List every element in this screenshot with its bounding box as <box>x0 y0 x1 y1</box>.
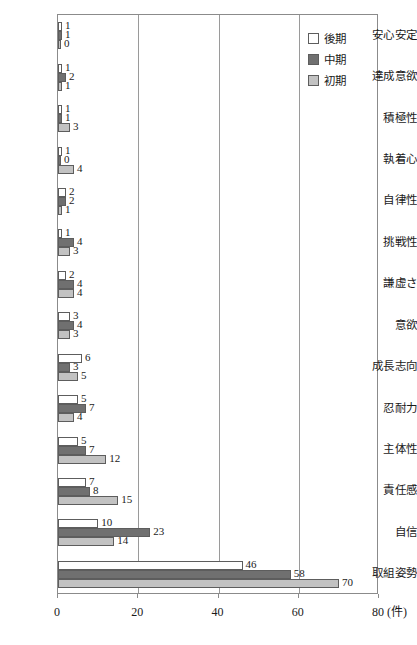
bar-後期 <box>58 519 98 528</box>
bar-中期 <box>58 156 61 165</box>
bar-中期 <box>58 363 70 372</box>
legend-label: 中期 <box>324 54 346 66</box>
bar-value-label: 5 <box>81 436 87 445</box>
bar-value-label: 46 <box>246 560 257 569</box>
bar-中期 <box>58 446 86 455</box>
bar-初期 <box>58 330 70 339</box>
bar-中期 <box>58 321 74 330</box>
bar-value-label: 7 <box>89 403 95 412</box>
bar-value-label: 4 <box>77 164 83 173</box>
axis-tick-label: 40 <box>212 605 224 619</box>
bar-value-label: 23 <box>153 527 164 536</box>
bar-group: 7815 <box>58 478 377 508</box>
category-label-9: 成長志向 <box>363 360 417 372</box>
bar-group: 102314 <box>58 519 377 549</box>
bar-後期 <box>58 561 243 570</box>
plot-area: 1101211131042211432443436355745712781510… <box>57 14 378 594</box>
bar-group: 343 <box>58 312 377 342</box>
bar-value-label: 10 <box>101 518 112 527</box>
bar-value-label: 0 <box>64 39 70 48</box>
bar-value-label: 3 <box>73 122 79 131</box>
bar-後期 <box>58 105 62 114</box>
axis-tick-label: 0 <box>54 605 60 619</box>
category-label-13: 自信 <box>363 526 417 538</box>
bar-初期 <box>58 289 74 298</box>
category-label-11: 主体性 <box>363 443 417 455</box>
category-label-3: 積極性 <box>363 112 417 124</box>
category-label-6: 挑戦性 <box>363 236 417 248</box>
bar-初期 <box>58 537 114 546</box>
axis-tick-label: 20 <box>131 605 143 619</box>
bar-中期 <box>58 238 74 247</box>
bar-初期 <box>58 206 62 215</box>
bar-value-label: 4 <box>77 288 83 297</box>
bar-value-label: 1 <box>65 113 71 122</box>
white-swatch-icon <box>308 33 319 44</box>
legend-entry-shoki[interactable]: 初期 <box>308 70 372 91</box>
bar-後期 <box>58 64 62 73</box>
axis-tick <box>57 594 58 598</box>
bar-初期 <box>58 123 70 132</box>
bar-中期 <box>58 528 150 537</box>
bar-初期 <box>58 247 70 256</box>
bar-group: 574 <box>58 395 377 425</box>
bar-value-label: 2 <box>69 270 75 279</box>
bar-後期 <box>58 188 66 197</box>
bar-group: 465870 <box>58 561 377 591</box>
category-label-14: 取組姿勢 <box>363 567 417 579</box>
dark-gray-swatch-icon <box>308 54 319 65</box>
category-label-8: 意欲 <box>363 319 417 331</box>
axis-tick-label: 60 <box>292 605 304 619</box>
legend-entry-chuki[interactable]: 中期 <box>308 49 372 70</box>
bar-後期 <box>58 147 62 156</box>
bar-中期 <box>58 114 62 123</box>
bar-後期 <box>58 312 70 321</box>
bar-初期 <box>58 40 61 49</box>
legend: 後期 中期 初期 <box>308 28 372 91</box>
bar-value-label: 7 <box>89 445 95 454</box>
bar-後期 <box>58 395 78 404</box>
category-label-12: 責任感 <box>363 484 417 496</box>
bar-中期 <box>58 280 74 289</box>
bar-初期 <box>58 82 62 91</box>
bar-value-label: 3 <box>73 246 79 255</box>
light-gray-swatch-icon <box>308 75 319 86</box>
bar-中期 <box>58 31 62 40</box>
legend-entry-kouki[interactable]: 後期 <box>308 28 372 49</box>
bar-group: 143 <box>58 229 377 259</box>
legend-label: 後期 <box>324 33 346 45</box>
bar-value-label: 1 <box>65 205 71 214</box>
axis-tick <box>218 594 219 598</box>
axis-tick <box>137 594 138 598</box>
bar-value-label: 0 <box>64 155 70 164</box>
legend-label: 初期 <box>324 75 346 87</box>
bar-初期 <box>58 579 339 588</box>
bar-中期 <box>58 570 291 579</box>
bar-後期 <box>58 22 62 31</box>
bar-初期 <box>58 413 74 422</box>
category-label-4: 執着心 <box>363 153 417 165</box>
bar-chart: 1101211131042211432443436355745712781510… <box>0 0 417 645</box>
bar-value-label: 12 <box>109 454 120 463</box>
bar-後期 <box>58 437 78 446</box>
bar-value-label: 5 <box>81 371 87 380</box>
bar-初期 <box>58 372 78 381</box>
bar-value-label: 58 <box>294 569 305 578</box>
bar-value-label: 4 <box>77 412 83 421</box>
bar-value-label: 6 <box>85 353 91 362</box>
bar-value-label: 15 <box>121 495 132 504</box>
bar-中期 <box>58 487 90 496</box>
bar-後期 <box>58 271 66 280</box>
axis-tick <box>298 594 299 598</box>
bar-初期 <box>58 165 74 174</box>
category-label-5: 自律性 <box>363 194 417 206</box>
category-label-7: 謙虚さ <box>363 277 417 289</box>
bar-group: 104 <box>58 147 377 177</box>
clipped-header-text <box>0 0 417 8</box>
axis-tick <box>378 594 379 598</box>
bar-group: 244 <box>58 271 377 301</box>
bar-value-label: 3 <box>73 329 79 338</box>
bar-value-label: 8 <box>93 486 99 495</box>
category-label-10: 忍耐力 <box>363 402 417 414</box>
bar-group: 635 <box>58 354 377 384</box>
